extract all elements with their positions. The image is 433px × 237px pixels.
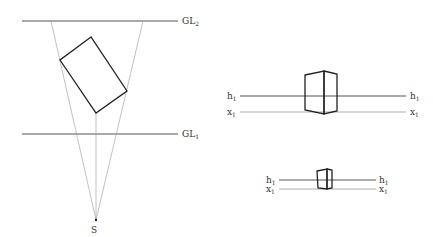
small-box-right-face bbox=[327, 169, 332, 189]
perspective-view-2: h1 h1 x1 x1 bbox=[266, 169, 389, 195]
h1-right-label: h1 bbox=[410, 91, 420, 102]
h1-left-label: h1 bbox=[227, 91, 237, 102]
sight-line-right bbox=[96, 21, 143, 220]
gl2-label: GL2 bbox=[182, 16, 199, 27]
sight-line-left bbox=[51, 21, 96, 220]
station-point-label: S bbox=[91, 225, 97, 235]
box-left-face bbox=[305, 71, 324, 114]
plan-view: GL2 GL1 S bbox=[22, 16, 199, 235]
small-box-left-face bbox=[317, 169, 327, 189]
perspective-view-1: h1 h1 x1 x1 bbox=[227, 71, 420, 118]
x1-right-label: x1 bbox=[410, 107, 419, 118]
plan-rectangle bbox=[60, 37, 127, 113]
perspective-diagram: GL2 GL1 S h1 h1 x1 x1 h1 h1 x1 x1 bbox=[0, 0, 433, 237]
gl1-label: GL1 bbox=[182, 129, 199, 140]
station-point bbox=[95, 219, 97, 221]
box-right-face bbox=[324, 71, 337, 114]
x1-left-label: x1 bbox=[227, 107, 236, 118]
